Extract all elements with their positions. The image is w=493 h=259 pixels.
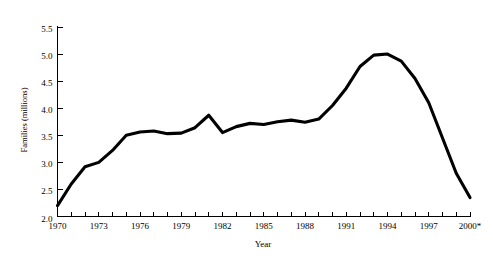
y-axis-ticks [58,27,63,217]
x-axis-tick-label: 1973 [90,221,109,231]
x-axis-tick-labels: 1970197319761979198219851988199119941997… [49,221,482,231]
y-axis-tick-label: 5.5 [41,24,53,34]
y-axis-tick-label: 4.0 [41,105,53,115]
y-axis-tick-label: 3.0 [41,159,53,169]
x-axis-tick-label: 1970 [49,221,68,231]
x-axis-tick-label: 1988 [296,221,315,231]
x-axis-tick-label: 1994 [379,221,398,231]
x-axis-tick-label: 1985 [255,221,274,231]
y-axis-tick-label: 3.5 [41,132,53,142]
x-axis-tick-label: 1982 [214,221,232,231]
line-chart-plot: 2.02.53.03.54.04.55.05.5 197019731976197… [0,0,493,259]
chart-figure: 2.02.53.03.54.04.55.05.5 197019731976197… [0,0,493,259]
x-axis-tick-label: 1991 [337,221,355,231]
y-axis-tick-labels: 2.02.53.03.54.04.55.05.5 [41,24,53,224]
y-axis-tick-label: 4.5 [41,78,53,88]
x-axis-tick-label: 1979 [172,221,191,231]
x-axis-tick-label: 2000* [459,221,482,231]
y-axis-tick-label: 2.5 [41,186,53,196]
y-axis-title: Families (millions) [19,87,29,152]
chart-axes [57,26,470,217]
x-axis-tick-label: 1976 [131,221,150,231]
data-series-line [58,54,471,206]
y-axis-tick-label: 5.0 [41,51,53,61]
x-axis-ticks [58,212,471,217]
x-axis-tick-label: 1997 [420,221,439,231]
x-axis-title: Year [255,239,272,249]
